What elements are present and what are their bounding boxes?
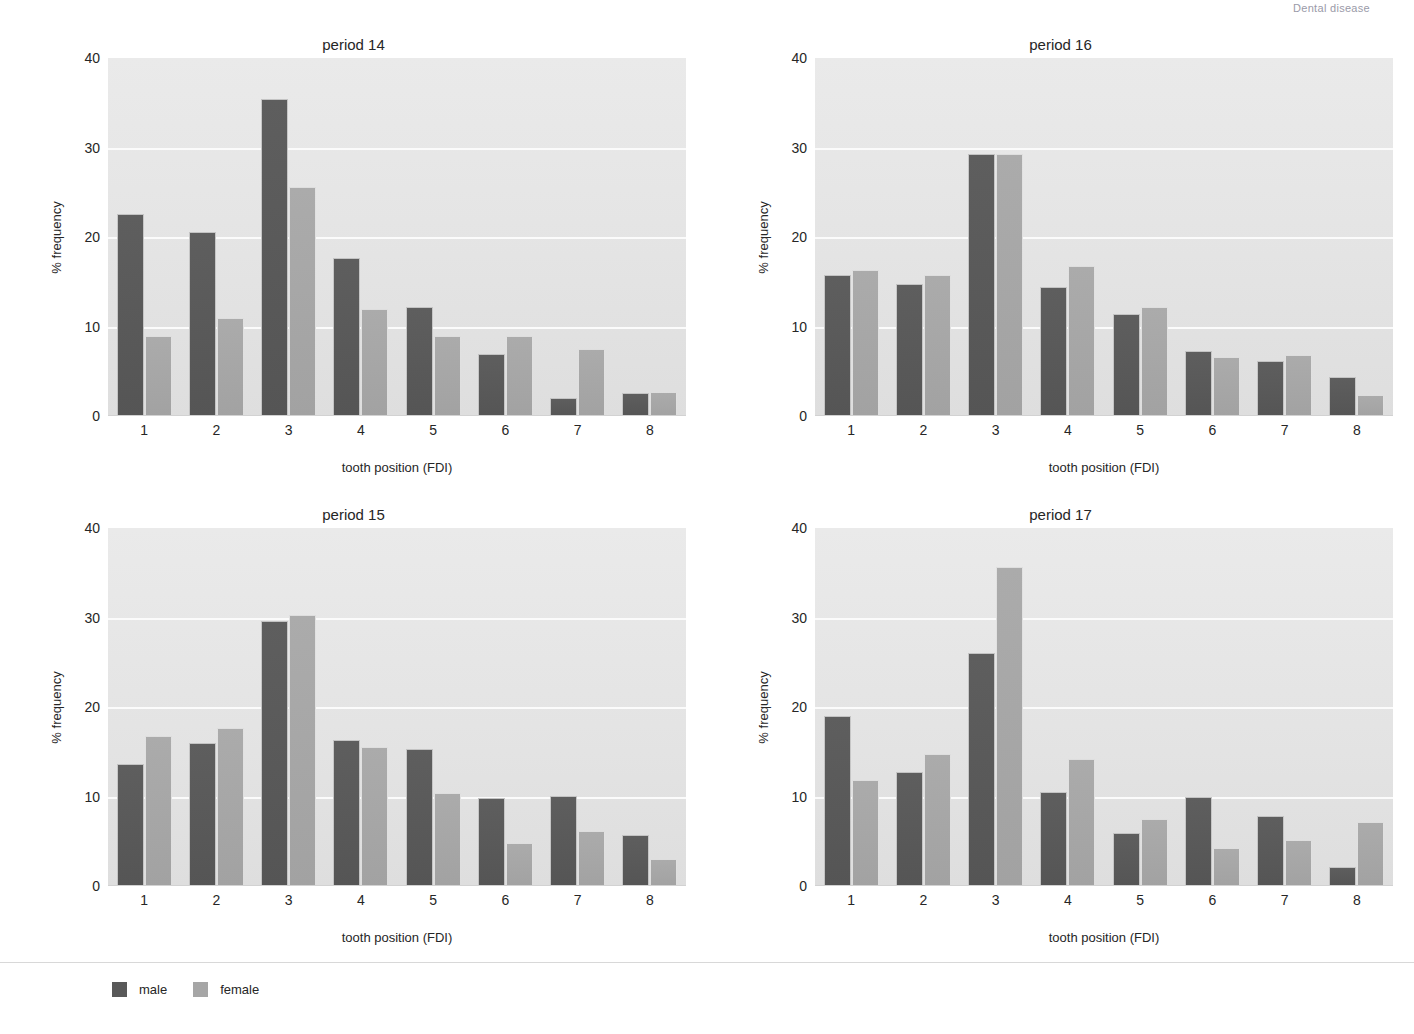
x-tick-label: 7 (1249, 892, 1321, 908)
bar-group (397, 528, 469, 886)
bar-group (253, 528, 325, 886)
bar-group (108, 58, 180, 416)
bar-male[interactable] (622, 393, 649, 416)
y-axis-label-text: % frequency (49, 671, 64, 743)
bar-female[interactable] (1068, 266, 1095, 416)
bar-male[interactable] (1185, 797, 1212, 887)
bar-male[interactable] (1040, 287, 1067, 416)
bar-group (325, 528, 397, 886)
bar-male[interactable] (478, 798, 505, 886)
bar-female[interactable] (434, 793, 461, 886)
bar-male[interactable] (550, 796, 577, 886)
bar-male[interactable] (333, 740, 360, 886)
x-tick-label: 3 (960, 892, 1032, 908)
bar-female[interactable] (650, 392, 677, 416)
bar-male[interactable] (1113, 833, 1140, 886)
bar-female[interactable] (996, 567, 1023, 886)
bar-male[interactable] (1329, 377, 1356, 416)
bar-female[interactable] (361, 309, 388, 416)
bar-female[interactable] (361, 747, 388, 886)
bar-male[interactable] (968, 653, 995, 886)
bar-male[interactable] (406, 307, 433, 416)
plot-area-0: 403020100 (108, 58, 686, 416)
bar-male[interactable] (622, 835, 649, 886)
x-axis-line (815, 415, 1393, 416)
y-axis-label: % frequency (46, 528, 66, 886)
bar-female[interactable] (289, 187, 316, 416)
bar-male[interactable] (117, 764, 144, 886)
bar-male[interactable] (406, 749, 433, 886)
legend-item-female[interactable]: female (193, 982, 259, 997)
bar-female[interactable] (1213, 357, 1240, 416)
bar-female[interactable] (924, 275, 951, 416)
x-tick-label: 8 (614, 892, 686, 908)
bar-female[interactable] (217, 728, 244, 886)
bar-male[interactable] (1257, 816, 1284, 886)
bar-female[interactable] (434, 336, 461, 416)
bar-female[interactable] (506, 843, 533, 886)
bar-male[interactable] (550, 398, 577, 416)
legend-label: female (220, 982, 259, 997)
bar-group (614, 58, 686, 416)
bar-female[interactable] (924, 754, 951, 886)
x-tick-label: 5 (397, 422, 469, 438)
bar-female[interactable] (1357, 822, 1384, 886)
x-tick-label: 6 (1176, 422, 1248, 438)
bar-female[interactable] (1141, 307, 1168, 416)
x-tick-label: 7 (1249, 422, 1321, 438)
panel-period-17: period 17 % frequency 403020100 12345678… (707, 492, 1414, 962)
legend-item-male[interactable]: male (112, 982, 167, 997)
bar-female[interactable] (145, 336, 172, 416)
panel-title: period 16 (707, 36, 1414, 53)
bar-group (1032, 528, 1104, 886)
bar-male[interactable] (333, 258, 360, 416)
bar-male[interactable] (1257, 361, 1284, 416)
bar-female[interactable] (1068, 759, 1095, 886)
bar-female[interactable] (1285, 840, 1312, 886)
bar-male[interactable] (824, 716, 851, 886)
bar-male[interactable] (824, 275, 851, 416)
bar-female[interactable] (217, 318, 244, 416)
chart-legend: malefemale (112, 982, 259, 997)
bar-male[interactable] (478, 354, 505, 416)
bar-female[interactable] (506, 336, 533, 416)
bar-male[interactable] (1040, 792, 1067, 886)
y-tick-label: 0 (799, 878, 807, 894)
bar-male[interactable] (968, 154, 995, 416)
bar-male[interactable] (1185, 351, 1212, 416)
bar-female[interactable] (650, 859, 677, 886)
bar-male[interactable] (261, 621, 288, 886)
x-axis-label: tooth position (FDI) (108, 460, 686, 475)
panel-period-14: period 14 % frequency 403020100 12345678… (0, 22, 707, 492)
bar-male[interactable] (1113, 314, 1140, 416)
bar-female[interactable] (996, 154, 1023, 416)
bar-male[interactable] (189, 232, 216, 416)
bar-female[interactable] (145, 736, 172, 886)
bar-female[interactable] (578, 349, 605, 416)
bar-female[interactable] (289, 615, 316, 886)
bar-female[interactable] (852, 270, 879, 416)
plot-area-2: 403020100 (108, 528, 686, 886)
bar-group (469, 58, 541, 416)
bar-female[interactable] (1357, 395, 1384, 416)
x-tick-label: 3 (253, 422, 325, 438)
bar-male[interactable] (261, 99, 288, 416)
y-tick-label: 40 (84, 520, 100, 536)
x-axis-label: tooth position (FDI) (815, 460, 1393, 475)
bar-female[interactable] (1285, 355, 1312, 416)
x-ticks-3: 12345678 (815, 892, 1393, 908)
bar-female[interactable] (1213, 848, 1240, 886)
bar-male[interactable] (896, 284, 923, 416)
x-tick-label: 6 (469, 422, 541, 438)
x-ticks-1: 12345678 (815, 422, 1393, 438)
bar-female[interactable] (578, 831, 605, 886)
bar-female[interactable] (1141, 819, 1168, 886)
bar-group (1321, 58, 1393, 416)
bar-male[interactable] (896, 772, 923, 886)
bar-male[interactable] (1329, 867, 1356, 886)
bar-male[interactable] (117, 214, 144, 416)
bar-female[interactable] (852, 780, 879, 886)
bar-male[interactable] (189, 743, 216, 886)
y-axis-label-text: % frequency (756, 201, 771, 273)
plot-area-3: 403020100 (815, 528, 1393, 886)
